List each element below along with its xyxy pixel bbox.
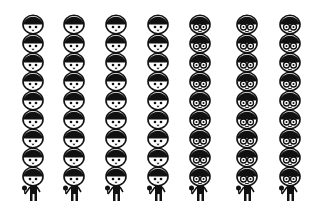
person-icon xyxy=(105,147,127,167)
person-icon xyxy=(105,52,127,72)
pictogram-grid xyxy=(0,0,320,217)
person-icon xyxy=(105,90,127,110)
person-with-glasses-icon xyxy=(279,14,301,34)
person-with-glasses-icon xyxy=(279,147,301,167)
person-with-glasses-icon xyxy=(236,52,258,72)
person-icon xyxy=(147,109,169,129)
person-with-glasses-icon xyxy=(279,52,301,72)
person-with-glasses-icon xyxy=(279,90,301,110)
person-icon xyxy=(22,166,44,186)
person-with-glasses-icon xyxy=(236,71,258,91)
person-with-glasses-icon xyxy=(279,109,301,129)
person-icon xyxy=(63,90,85,110)
person-body-icon xyxy=(188,185,212,203)
person-with-glasses-icon xyxy=(189,147,211,167)
person-icon xyxy=(63,52,85,72)
person-icon xyxy=(147,33,169,53)
pictogram-column-glasses xyxy=(188,14,212,203)
person-with-glasses-icon xyxy=(236,33,258,53)
person-with-glasses-icon xyxy=(236,128,258,148)
person-icon xyxy=(147,71,169,91)
person-icon xyxy=(22,33,44,53)
person-icon xyxy=(63,71,85,91)
person-with-glasses-icon xyxy=(189,52,211,72)
person-with-glasses-icon xyxy=(189,90,211,110)
person-with-glasses-icon xyxy=(189,33,211,53)
person-icon xyxy=(147,147,169,167)
person-body-icon xyxy=(21,185,45,203)
person-icon xyxy=(63,33,85,53)
person-body-icon xyxy=(62,185,86,203)
person-with-glasses-icon xyxy=(279,166,301,186)
pictogram-column-plain xyxy=(104,14,128,203)
person-icon xyxy=(22,52,44,72)
person-icon xyxy=(147,14,169,34)
person-icon xyxy=(105,109,127,129)
person-with-glasses-icon xyxy=(236,90,258,110)
person-icon xyxy=(63,14,85,34)
person-body-icon xyxy=(146,185,170,203)
person-icon xyxy=(105,33,127,53)
person-with-glasses-icon xyxy=(236,109,258,129)
person-body-icon xyxy=(278,185,302,203)
person-with-glasses-icon xyxy=(189,109,211,129)
person-icon xyxy=(147,166,169,186)
person-icon xyxy=(105,71,127,91)
person-body-icon xyxy=(104,185,128,203)
person-icon xyxy=(63,109,85,129)
person-body-icon xyxy=(235,185,259,203)
person-with-glasses-icon xyxy=(279,71,301,91)
person-with-glasses-icon xyxy=(236,147,258,167)
person-icon xyxy=(22,109,44,129)
pictogram-column-plain xyxy=(146,14,170,203)
pictogram-column-plain xyxy=(62,14,86,203)
person-with-glasses-icon xyxy=(279,33,301,53)
person-with-glasses-icon xyxy=(189,14,211,34)
person-with-glasses-icon xyxy=(189,166,211,186)
pictogram-column-glasses xyxy=(278,14,302,203)
person-icon xyxy=(63,147,85,167)
person-icon xyxy=(22,90,44,110)
person-icon xyxy=(147,128,169,148)
person-icon xyxy=(105,166,127,186)
person-icon xyxy=(22,14,44,34)
pictogram-column-plain xyxy=(21,14,45,203)
person-with-glasses-icon xyxy=(236,14,258,34)
person-icon xyxy=(63,166,85,186)
person-icon xyxy=(63,128,85,148)
person-with-glasses-icon xyxy=(189,128,211,148)
person-icon xyxy=(105,128,127,148)
person-icon xyxy=(147,52,169,72)
person-with-glasses-icon xyxy=(279,128,301,148)
person-icon xyxy=(105,14,127,34)
person-icon xyxy=(22,147,44,167)
pictogram-column-glasses xyxy=(235,14,259,203)
person-with-glasses-icon xyxy=(236,166,258,186)
person-with-glasses-icon xyxy=(189,71,211,91)
person-icon xyxy=(22,128,44,148)
person-icon xyxy=(22,71,44,91)
person-icon xyxy=(147,90,169,110)
